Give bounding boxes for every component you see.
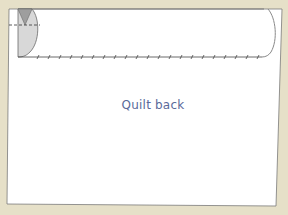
quilt-back-label: Quilt back — [122, 98, 185, 112]
quilt-back-label-wrap: Quilt back — [0, 98, 288, 112]
